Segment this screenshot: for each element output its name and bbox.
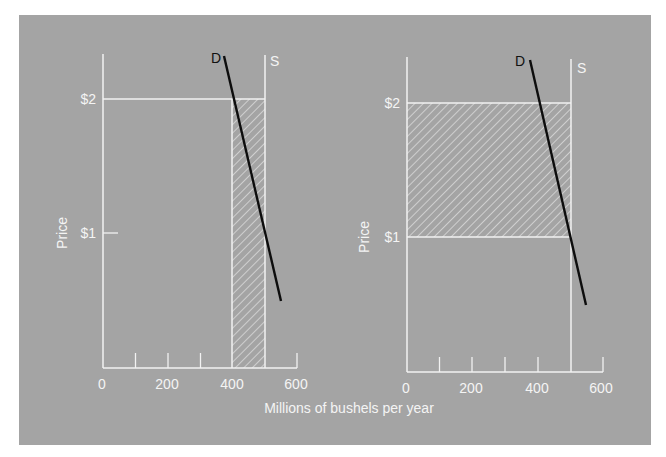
left-x-tick-200: 200: [155, 376, 179, 392]
left-x-tick-0: 0: [98, 376, 106, 392]
right-y-tick-1: $1: [384, 229, 400, 245]
right-x-tick-200: 200: [459, 380, 483, 396]
left-x-tick-400: 400: [220, 376, 244, 392]
right-x-tick-0: 0: [402, 380, 410, 396]
left-y-tick-1: $1: [80, 225, 96, 241]
x-axis-title: Millions of bushels per year: [264, 400, 434, 416]
right-supply-label: S: [577, 60, 586, 76]
left-y-tick-2: $2: [80, 91, 96, 107]
left-hatched-area: [232, 99, 265, 368]
right-x-tick-400: 400: [525, 380, 549, 396]
left-y-axis-label: Price: [54, 217, 70, 249]
right-y-axis-label: Price: [356, 221, 372, 253]
supply-demand-figure: D S $2 $1 Price 0 200 400 600 D: [0, 0, 666, 457]
right-hatched-area: [407, 103, 571, 237]
right-demand-label: D: [515, 53, 525, 69]
left-demand-label: D: [211, 50, 221, 66]
figure-canvas: D S $2 $1 Price 0 200 400 600 D: [0, 0, 666, 457]
right-y-tick-2: $2: [384, 95, 400, 111]
left-x-tick-600: 600: [284, 376, 308, 392]
left-supply-label: S: [270, 53, 279, 69]
right-x-tick-600: 600: [589, 380, 613, 396]
